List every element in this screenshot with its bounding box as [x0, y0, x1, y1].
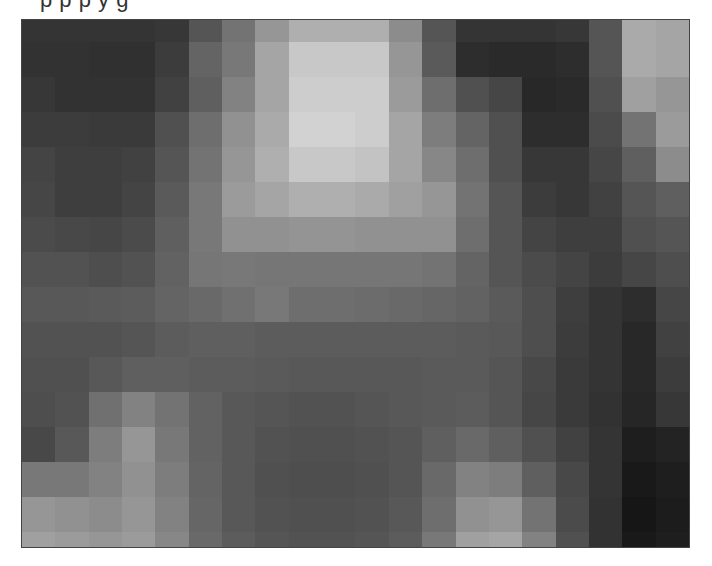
image-pixel-cell — [622, 532, 655, 547]
image-pixel-cell — [155, 287, 188, 322]
image-pixel-cell — [22, 392, 55, 427]
image-pixel-cell — [456, 20, 489, 42]
image-pixel-cell — [589, 112, 622, 147]
image-pixel-cell — [556, 20, 589, 42]
image-pixel-cell — [189, 252, 222, 287]
image-pixel-cell — [122, 357, 155, 392]
image-pixel-cell — [489, 182, 522, 217]
image-pixel-cell — [656, 427, 689, 462]
image-pixel-cell — [389, 462, 422, 497]
image-pixel-cell — [289, 147, 322, 182]
image-pixel-cell — [556, 182, 589, 217]
image-pixel-cell — [289, 322, 322, 357]
image-pixel-cell — [189, 77, 222, 112]
image-pixel-cell — [255, 532, 288, 547]
image-pixel-cell — [22, 252, 55, 287]
image-pixel-cell — [622, 42, 655, 77]
image-pixel-cell — [589, 462, 622, 497]
image-pixel-cell — [322, 77, 355, 112]
image-pixel-cell — [222, 147, 255, 182]
image-pixel-cell — [622, 252, 655, 287]
image-pixel-cell — [189, 357, 222, 392]
image-pixel-cell — [355, 462, 388, 497]
image-pixel-cell — [656, 112, 689, 147]
image-pixel-cell — [389, 287, 422, 322]
image-pixel-cell — [556, 322, 589, 357]
image-pixel-cell — [255, 42, 288, 77]
image-pixel-cell — [556, 252, 589, 287]
image-pixel-cell — [55, 532, 88, 547]
image-pixel-cell — [456, 77, 489, 112]
image-pixel-cell — [189, 147, 222, 182]
image-pixel-cell — [222, 252, 255, 287]
image-pixel-cell — [522, 182, 555, 217]
image-pixel-cell — [55, 182, 88, 217]
image-pixel-cell — [622, 20, 655, 42]
image-pixel-cell — [155, 182, 188, 217]
image-pixel-cell — [255, 392, 288, 427]
image-pixel-cell — [289, 462, 322, 497]
image-pixel-cell — [355, 77, 388, 112]
image-pixel-cell — [55, 427, 88, 462]
image-pixel-cell — [89, 147, 122, 182]
image-pixel-cell — [89, 497, 122, 532]
image-pixel-cell — [89, 462, 122, 497]
image-pixel-cell — [55, 357, 88, 392]
image-pixel-cell — [355, 20, 388, 42]
image-pixel-cell — [89, 322, 122, 357]
image-pixel-cell — [55, 217, 88, 252]
image-pixel-cell — [255, 287, 288, 322]
image-pixel-cell — [222, 532, 255, 547]
image-pixel-cell — [122, 112, 155, 147]
image-pixel-cell — [289, 217, 322, 252]
image-pixel-cell — [556, 427, 589, 462]
image-pixel-cell — [355, 182, 388, 217]
image-pixel-cell — [189, 462, 222, 497]
image-pixel-cell — [355, 252, 388, 287]
image-pixel-cell — [289, 357, 322, 392]
image-pixel-cell — [489, 77, 522, 112]
image-pixel-cell — [155, 42, 188, 77]
image-pixel-cell — [622, 497, 655, 532]
image-pixel-cell — [55, 392, 88, 427]
image-pixel-cell — [189, 182, 222, 217]
image-pixel-cell — [456, 357, 489, 392]
image-pixel-cell — [489, 497, 522, 532]
image-pixel-cell — [622, 357, 655, 392]
image-pixel-cell — [55, 42, 88, 77]
image-pixel-cell — [222, 462, 255, 497]
image-pixel-cell — [189, 20, 222, 42]
image-pixel-cell — [589, 427, 622, 462]
image-pixel-cell — [389, 77, 422, 112]
image-pixel-cell — [122, 182, 155, 217]
image-pixel-cell — [422, 147, 455, 182]
image-pixel-cell — [155, 77, 188, 112]
image-pixel-cell — [456, 322, 489, 357]
image-pixel-cell — [389, 182, 422, 217]
image-pixel-cell — [55, 462, 88, 497]
image-pixel-cell — [522, 42, 555, 77]
image-pixel-cell — [355, 322, 388, 357]
image-pixel-cell — [22, 532, 55, 547]
image-pixel-cell — [255, 462, 288, 497]
image-pixel-cell — [622, 287, 655, 322]
image-pixel-cell — [22, 217, 55, 252]
image-pixel-cell — [189, 322, 222, 357]
image-pixel-cell — [422, 20, 455, 42]
image-pixel-cell — [289, 497, 322, 532]
image-pixel-cell — [456, 182, 489, 217]
image-pixel-cell — [22, 322, 55, 357]
image-pixel-cell — [656, 287, 689, 322]
image-pixel-cell — [422, 532, 455, 547]
image-pixel-cell — [489, 42, 522, 77]
image-pixel-cell — [489, 217, 522, 252]
image-pixel-cell — [189, 217, 222, 252]
image-pixel-cell — [556, 497, 589, 532]
image-pixel-cell — [189, 427, 222, 462]
image-pixel-cell — [456, 392, 489, 427]
image-pixel-cell — [355, 42, 388, 77]
image-pixel-cell — [556, 532, 589, 547]
image-pixel-cell — [589, 287, 622, 322]
image-pixel-cell — [22, 462, 55, 497]
image-pixel-cell — [489, 252, 522, 287]
